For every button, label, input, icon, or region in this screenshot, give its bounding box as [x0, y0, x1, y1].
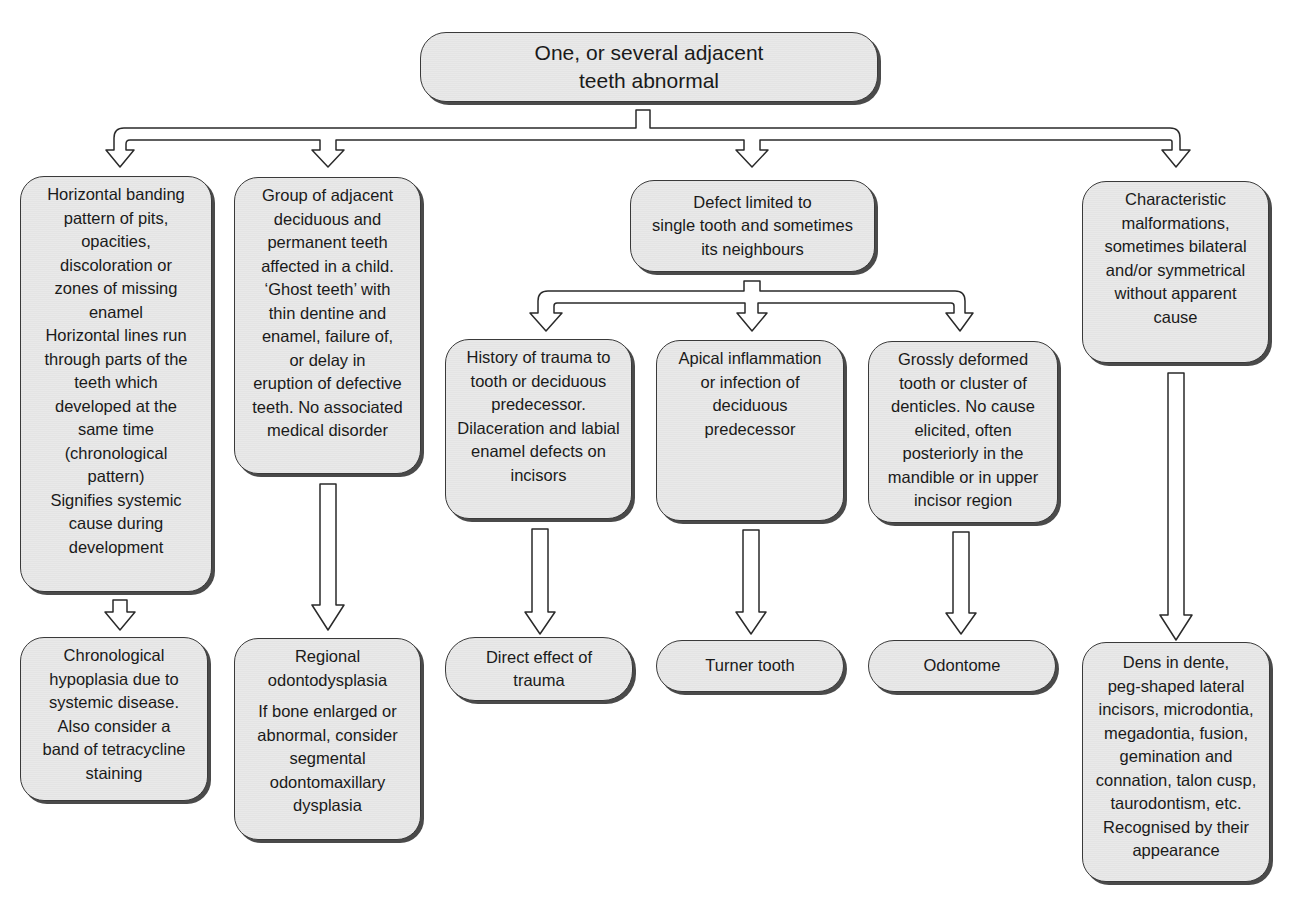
root-branch-arrow: [106, 110, 1190, 167]
direct-trauma-text: Direct effect of trauma: [486, 646, 592, 693]
apical-inflammation-text: Apical inflammation or infection of deci…: [678, 347, 821, 441]
node-single-tooth: Defect limited to single tooth and somet…: [630, 180, 875, 272]
horizontal-banding-text: Horizontal banding pattern of pits, opac…: [44, 183, 187, 559]
node-turner-tooth: Turner tooth: [656, 640, 844, 692]
turner-tooth-text: Turner tooth: [705, 654, 794, 678]
apical-down-arrow: [736, 530, 766, 634]
characteristic-text: Characteristic malformations, sometimes …: [1104, 188, 1246, 329]
banding-down-arrow: [105, 600, 135, 630]
node-apical-inflammation: Apical inflammation or infection of deci…: [656, 340, 844, 521]
node-odontome: Odontome: [868, 640, 1056, 692]
odontome-text: Odontome: [923, 654, 1000, 678]
node-group-adjacent: Group of adjacent deciduous and permanen…: [234, 177, 421, 474]
dens-in-dente-text: Dens in dente, peg-shaped lateral inciso…: [1096, 651, 1257, 863]
node-direct-trauma: Direct effect of trauma: [445, 637, 633, 701]
root-node: One, or several adjacent teeth abnormal: [420, 32, 878, 102]
node-chronological-hypoplasia: Chronological hypoplasia due to systemic…: [20, 637, 208, 801]
root-text: One, or several adjacent teeth abnormal: [535, 39, 764, 95]
deformed-down-arrow: [946, 532, 976, 634]
single-tooth-branch-arrow: [530, 281, 973, 331]
regional-odontodysplasia-title: Regional odontodysplasia: [268, 645, 387, 692]
trauma-history-text: History of trauma to tooth or deciduous …: [457, 346, 619, 487]
node-grossly-deformed: Grossly deformed tooth or cluster of den…: [868, 341, 1058, 523]
characteristic-down-arrow: [1160, 373, 1192, 640]
regional-odontodysplasia-note: If bone enlarged or abnormal, consider s…: [257, 700, 397, 818]
trauma-down-arrow: [525, 529, 555, 634]
node-characteristic: Characteristic malformations, sometimes …: [1082, 181, 1269, 363]
grossly-deformed-text: Grossly deformed tooth or cluster of den…: [888, 348, 1038, 513]
single-tooth-text: Defect limited to single tooth and somet…: [652, 191, 853, 262]
node-horizontal-banding: Horizontal banding pattern of pits, opac…: [20, 176, 212, 592]
chronological-hypoplasia-text: Chronological hypoplasia due to systemic…: [42, 644, 185, 785]
group-down-arrow: [312, 484, 344, 630]
node-dens-in-dente: Dens in dente, peg-shaped lateral inciso…: [1082, 642, 1270, 882]
group-adjacent-text: Group of adjacent deciduous and permanen…: [252, 184, 402, 443]
node-trauma-history: History of trauma to tooth or deciduous …: [445, 339, 632, 519]
node-regional-odontodysplasia: Regional odontodysplasia If bone enlarge…: [234, 638, 421, 840]
